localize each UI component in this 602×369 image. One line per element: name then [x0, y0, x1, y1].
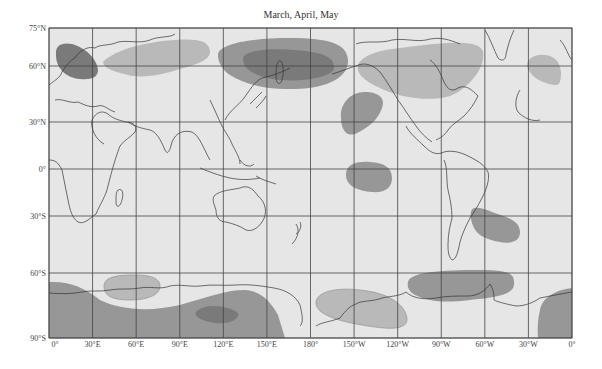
longitude-label: 150°E: [257, 340, 277, 349]
latitude-label: 60°N: [29, 62, 46, 71]
longitude-label: 120°E: [213, 340, 233, 349]
latitude-label: 0°: [39, 165, 46, 174]
latitude-label: 30°S: [30, 212, 46, 221]
latitude-label: 60°S: [30, 269, 46, 278]
longitude-label: 30°W: [519, 340, 538, 349]
longitude-label: 90°W: [432, 340, 451, 349]
longitude-label: 120°W: [386, 340, 409, 349]
latitude-label: 75°N: [29, 24, 46, 33]
longitude-label: 0°: [568, 340, 575, 349]
longitude-label: 0°: [51, 340, 58, 349]
longitude-labels: 0°30°E60°E90°E120°E150°E180°150°W120°W90…: [51, 340, 575, 349]
longitude-label: 150°W: [343, 340, 366, 349]
longitude-label: 60°W: [475, 340, 494, 349]
world-map: 75°N60°N30°N0°30°S60°S90°S 0°30°E60°E90°…: [0, 0, 602, 369]
longitude-label: 60°E: [128, 340, 144, 349]
longitude-label: 90°E: [172, 340, 188, 349]
latitude-label: 30°N: [29, 118, 46, 127]
latitude-labels: 75°N60°N30°N0°30°S60°S90°S: [29, 24, 46, 343]
longitude-label: 30°E: [85, 340, 101, 349]
longitude-label: 180°: [303, 340, 318, 349]
latitude-label: 90°S: [30, 334, 46, 343]
